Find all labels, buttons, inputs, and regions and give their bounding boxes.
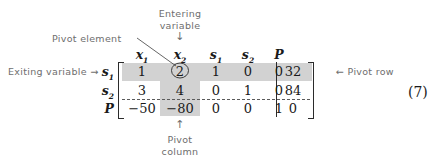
pivot-column-line1: Pivot bbox=[155, 134, 205, 146]
entering-variable-arrow-icon: ↓ bbox=[155, 31, 205, 43]
pivot-element-value: 2 bbox=[160, 64, 200, 79]
table-cell-r0-c2: 1 bbox=[200, 64, 232, 79]
table-cell-r2-rhs: 0 bbox=[278, 101, 308, 116]
entering-variable-label: Entering variable bbox=[155, 8, 205, 32]
table-cell-r1-c0: 3 bbox=[122, 83, 162, 98]
table-cell-r2-c3: 0 bbox=[232, 101, 264, 116]
table-cell-r0-rhs: 32 bbox=[278, 64, 308, 79]
column-header-s1: s1 bbox=[200, 47, 232, 65]
figure-canvas: x1 x2 s1 s2 P s1 s2 P 1 1 0 0 32 2 3 4 0… bbox=[0, 0, 447, 168]
column-header-x1: x1 bbox=[122, 47, 162, 65]
column-header-x2: x2 bbox=[160, 47, 200, 65]
row-label-s2: s2 bbox=[88, 83, 114, 101]
objective-row-dashed-separator bbox=[122, 99, 310, 100]
table-cell-r0-c3: 0 bbox=[232, 64, 264, 79]
exiting-variable-label: Exiting variable → bbox=[8, 66, 98, 78]
equation-number: (7) bbox=[408, 84, 428, 100]
pivot-column-label: Pivot column bbox=[155, 134, 205, 158]
table-cell-r1-rhs: 84 bbox=[278, 83, 308, 98]
pivot-column-line2: column bbox=[155, 146, 205, 158]
matrix-right-bracket bbox=[308, 62, 314, 119]
entering-variable-line1: Entering bbox=[155, 8, 205, 20]
pivot-element-label: Pivot element bbox=[52, 33, 121, 45]
pivot-row-label: ← Pivot row bbox=[336, 66, 394, 78]
row-label-P: P bbox=[88, 101, 114, 119]
table-cell-r1-c2: 0 bbox=[200, 83, 232, 98]
table-cell-r1-c1: 4 bbox=[160, 83, 200, 98]
table-cell-r1-c3: 1 bbox=[232, 83, 264, 98]
column-header-s2: s2 bbox=[232, 47, 264, 65]
table-cell-r0-c0: 1 bbox=[122, 64, 162, 79]
table-cell-r2-c0: −50 bbox=[120, 101, 164, 116]
table-cell-r2-c2: 0 bbox=[200, 101, 232, 116]
pivot-column-arrow-icon: ↑ bbox=[155, 119, 205, 131]
table-cell-r2-c1: −80 bbox=[159, 101, 201, 116]
column-header-P: P bbox=[264, 47, 294, 65]
